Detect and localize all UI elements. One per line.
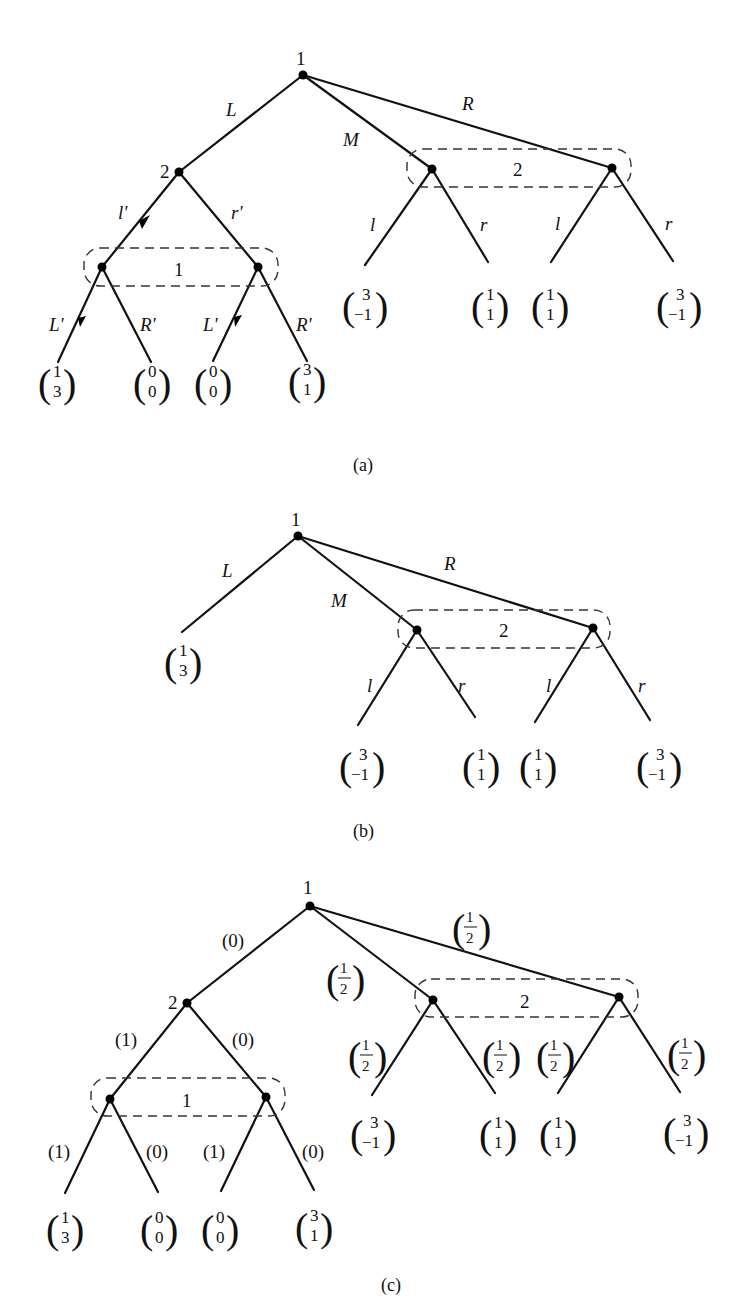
root-node [306, 902, 315, 911]
decision-node [183, 999, 192, 1008]
edge-l-prime [102, 172, 179, 267]
svg-text:3: 3 [656, 745, 665, 764]
svg-text:3: 3 [303, 360, 312, 379]
payoff-vector: () 1 1 [531, 284, 569, 329]
svg-text:2: 2 [550, 1058, 558, 1074]
svg-text:(: ( [38, 361, 51, 406]
svg-text:0: 0 [216, 1208, 225, 1227]
svg-text:3: 3 [310, 1206, 319, 1225]
probability-fraction: () 1 2 [326, 957, 365, 1002]
svg-text:1: 1 [362, 1037, 370, 1053]
svg-text:): ) [487, 744, 500, 789]
action-label-l-prime: l' [118, 202, 128, 223]
svg-text:(: ( [531, 284, 544, 329]
svg-text:1: 1 [61, 1208, 70, 1227]
svg-text:(: ( [667, 1032, 680, 1077]
probability-label: (0) [232, 1029, 254, 1051]
probability-label: (1) [115, 1029, 137, 1051]
probability-fraction: () 1 2 [667, 1032, 706, 1077]
payoff-vector: () 1 1 [539, 1112, 577, 1157]
action-label-M: M [342, 129, 360, 150]
edge-l-prime [110, 1003, 187, 1099]
edge-R [303, 75, 612, 168]
payoff-vector: () 1 3 [38, 361, 76, 406]
decision-node [106, 1095, 115, 1104]
payoff-vector: () 3 −1 [656, 284, 702, 329]
svg-text:1: 1 [303, 380, 312, 399]
svg-text:3: 3 [683, 1111, 692, 1130]
action-label-R-prime: R' [139, 314, 157, 335]
action-label-L-prime: L' [48, 314, 65, 335]
payoff-vector: () 3 −1 [342, 284, 388, 329]
svg-text:(: ( [462, 744, 475, 789]
svg-text:): ) [696, 1110, 709, 1155]
payoff-vector: () 1 3 [46, 1207, 84, 1252]
action-label-r-prime: r' [231, 202, 243, 223]
svg-text:): ) [219, 361, 232, 406]
svg-text:1: 1 [179, 641, 188, 660]
edge-L-prime-2 [213, 267, 258, 361]
action-label-l: l [555, 213, 560, 234]
edge-L [187, 906, 310, 1003]
root-node [299, 71, 308, 80]
payoff-vector: () 0 0 [133, 361, 171, 406]
action-label-r: r [665, 213, 673, 234]
decision-node [589, 624, 598, 633]
svg-text:): ) [693, 1032, 706, 1077]
decision-node [608, 164, 617, 173]
probability-label: (0) [222, 930, 244, 952]
svg-text:(: ( [201, 1207, 214, 1252]
svg-text:1: 1 [550, 1037, 558, 1053]
svg-text:(: ( [479, 1112, 492, 1157]
action-label-r: r [480, 214, 488, 235]
svg-text:1: 1 [477, 745, 486, 764]
svg-text:1: 1 [554, 1133, 563, 1152]
decision-node [413, 626, 422, 635]
svg-text:1: 1 [340, 960, 348, 976]
payoff-vector: () 0 0 [140, 1207, 178, 1252]
figure-caption: (c) [381, 1275, 401, 1296]
svg-text:1: 1 [534, 765, 543, 784]
svg-text:1: 1 [486, 285, 495, 304]
edge-L-prime-1 [65, 1099, 110, 1193]
svg-text:): ) [564, 1112, 577, 1157]
payoff-vector: () 3 1 [288, 359, 326, 404]
svg-text:): ) [556, 284, 569, 329]
action-label-L: L [221, 560, 233, 581]
svg-text:): ) [372, 744, 385, 789]
svg-text:): ) [374, 1034, 387, 1079]
player-label: 2 [513, 159, 523, 180]
svg-text:−1: −1 [675, 1131, 693, 1150]
svg-text:3: 3 [61, 1228, 70, 1247]
player-label: 2 [499, 620, 509, 641]
probability-label: (0) [302, 1141, 324, 1163]
svg-text:1: 1 [554, 1113, 563, 1132]
svg-text:): ) [508, 1034, 521, 1079]
svg-text:(: ( [471, 284, 484, 329]
svg-text:(: ( [194, 361, 207, 406]
decision-node [254, 263, 263, 272]
edge-L [179, 75, 303, 172]
svg-text:(: ( [164, 640, 177, 685]
arrow-icon [139, 215, 150, 229]
payoff-vector: () 3 −1 [636, 744, 682, 789]
edge-M [303, 75, 432, 169]
player-label: 1 [182, 1090, 192, 1111]
svg-text:): ) [320, 1205, 333, 1250]
svg-text:(: ( [452, 906, 465, 951]
svg-text:1: 1 [477, 765, 486, 784]
svg-text:0: 0 [155, 1208, 164, 1227]
svg-text:1: 1 [486, 305, 495, 324]
svg-text:): ) [496, 284, 509, 329]
svg-text:(: ( [295, 1205, 308, 1250]
svg-text:3: 3 [676, 285, 685, 304]
edge-r-2 [593, 628, 650, 720]
svg-text:1: 1 [546, 285, 555, 304]
svg-text:): ) [562, 1034, 575, 1079]
action-label-L-prime: L' [202, 314, 219, 335]
svg-text:): ) [504, 1112, 517, 1157]
svg-text:−1: −1 [648, 765, 666, 784]
action-label-M: M [330, 590, 348, 611]
svg-text:): ) [375, 284, 388, 329]
action-label-l: l [367, 675, 372, 696]
